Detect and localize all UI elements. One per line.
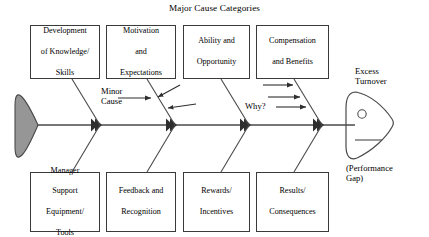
cause-box-line: and xyxy=(109,47,173,57)
annotation-why: Why? xyxy=(245,101,266,111)
cause-box-line: Support xyxy=(33,186,97,196)
effect-label-line2: Turnover xyxy=(355,76,387,86)
cause-box-line: Equipment/ xyxy=(33,207,97,217)
effect-sublabel-line1: (Performance xyxy=(346,163,393,173)
cause-box-line: and Benefits xyxy=(259,57,326,67)
effect-sublabel: (Performance Gap) xyxy=(346,163,393,184)
cause-box-line: Expectations xyxy=(109,68,173,78)
annotation-minor-cause-line2: Cause xyxy=(101,96,122,106)
cause-box-feedback-recognition[interactable]: Feedback and Recognition xyxy=(106,172,176,232)
page-title: Major Cause Categories xyxy=(0,3,429,13)
cause-box-compensation-benefits[interactable]: Compensation and Benefits xyxy=(256,25,329,79)
cause-box-results-consequences[interactable]: Results/ Consequences xyxy=(256,172,329,232)
cause-box-line: Development xyxy=(33,26,97,36)
cause-box-line: Consequences xyxy=(259,207,326,217)
cause-box-line: Recognition xyxy=(109,207,173,217)
cause-box-manager-support-equipment-tools[interactable]: Manager Support Equipment/ Tools xyxy=(30,172,100,232)
cause-box-line: Results/ xyxy=(259,186,326,196)
fishbone-diagram: Major Cause Categories Development of Kn… xyxy=(0,0,429,237)
cause-box-line: Rewards/ xyxy=(186,186,247,196)
cause-box-line: Opportunity xyxy=(186,57,247,67)
effect-label-line1: Excess xyxy=(355,66,379,76)
cause-box-rewards-incentives[interactable]: Rewards/ Incentives xyxy=(183,172,250,232)
cause-box-line: Compensation xyxy=(259,36,326,46)
annotation-minor-cause-line1: Minor xyxy=(101,86,122,96)
cause-box-line: Skills xyxy=(33,68,97,78)
cause-box-ability-opportunity[interactable]: Ability and Opportunity xyxy=(183,25,250,79)
cause-box-line: Motivation xyxy=(109,26,173,36)
cause-box-development-knowledge-skills[interactable]: Development of Knowledge/ Skills xyxy=(30,25,100,79)
cause-box-line: of Knowledge/ xyxy=(33,47,97,57)
cause-box-line: Ability and xyxy=(186,36,247,46)
cause-box-line: Incentives xyxy=(186,207,247,217)
cause-box-line: Tools xyxy=(33,228,97,237)
effect-label: Excess Turnover xyxy=(355,66,387,87)
cause-box-line: Manager xyxy=(33,166,97,176)
effect-sublabel-line2: Gap) xyxy=(346,173,363,183)
cause-box-motivation-expectations[interactable]: Motivation and Expectations xyxy=(106,25,176,79)
annotation-minor-cause: Minor Cause xyxy=(101,86,122,106)
cause-box-line: Feedback and xyxy=(109,186,173,196)
